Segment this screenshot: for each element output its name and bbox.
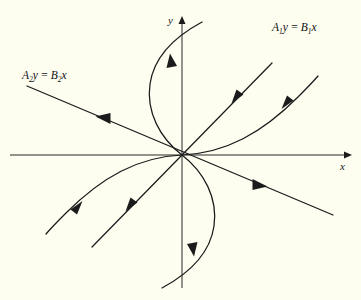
flow-arrow-icon xyxy=(232,90,244,104)
label-line2-equals: = xyxy=(40,69,48,81)
flow-arrow-icon xyxy=(187,242,198,257)
curve-upper-right xyxy=(182,76,318,155)
y-axis-label: y xyxy=(167,14,173,26)
label-line1-x: x xyxy=(310,21,317,33)
x-axis-arrow-icon xyxy=(344,152,352,159)
flow-arrow-icon xyxy=(126,198,138,212)
label-line2-y: y xyxy=(32,69,39,82)
curve-lower-loop xyxy=(162,155,215,288)
figure-container: x y A1y=B1x A2y=B2x xyxy=(0,0,361,300)
label-line1-y: y xyxy=(282,21,289,34)
y-axis-arrow-icon xyxy=(179,16,186,24)
label-line1-B: B xyxy=(301,21,308,33)
label-line2-B: B xyxy=(51,69,58,81)
x-axis-label: x xyxy=(339,160,345,172)
eigendirection-line-2 xyxy=(27,86,333,215)
flow-arrow-icon xyxy=(167,54,178,69)
label-line1-equals: = xyxy=(290,21,298,33)
curve-upper-loop xyxy=(149,22,202,155)
label-line2-x: x xyxy=(60,69,67,81)
label-line2: A2y=B2x xyxy=(21,69,67,84)
flow-arrow-icon xyxy=(96,113,111,124)
curve-lower-left xyxy=(46,155,182,234)
phase-portrait-svg: x y A1y=B1x A2y=B2x xyxy=(0,0,361,300)
label-line1: A1y=B1x xyxy=(271,21,317,36)
flow-arrow-icon xyxy=(253,179,268,190)
curve-labels-group: A1y=B1x A2y=B2x xyxy=(21,21,317,84)
